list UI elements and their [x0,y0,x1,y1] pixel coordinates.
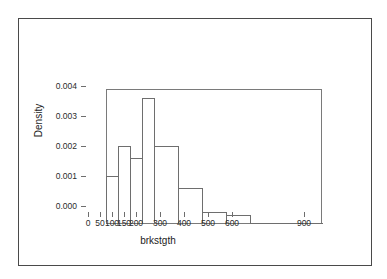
x-axis-title: brkstgth [140,235,176,246]
x-tick-label: 600 [225,218,239,228]
y-tick-label: 0.002 [56,141,78,151]
y-tick-label: 0.003 [56,111,78,121]
histogram-figure: 050100150200300400500600900brkstgth0.000… [0,0,387,279]
x-tick-label: 300 [153,218,167,228]
x-tick-label: 400 [177,218,191,228]
x-tick-label: 200 [129,218,143,228]
x-tick-label: 50 [95,218,105,228]
figure-card-border: 050100150200300400500600900brkstgth0.000… [18,18,372,266]
y-tick-label: 0.000 [56,201,78,211]
x-tick-label: 0 [86,218,91,228]
y-tick-label: 0.001 [56,171,78,181]
x-tick-label: 900 [297,218,311,228]
y-axis-title: Density [33,104,44,137]
y-tick-label: 0.004 [56,81,78,91]
x-tick-label: 500 [201,218,215,228]
axes-layer: 050100150200300400500600900brkstgth0.000… [19,19,373,267]
